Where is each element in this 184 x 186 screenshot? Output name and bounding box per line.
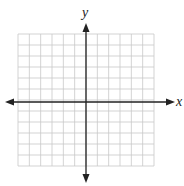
coordinate-plane: x y [0, 0, 184, 186]
y-axis [83, 23, 90, 183]
y-axis-up-arrow-icon [83, 23, 90, 32]
y-axis-down-arrow-icon [83, 174, 90, 183]
y-axis-label: y [80, 5, 89, 20]
x-axis-right-arrow-icon [166, 99, 175, 106]
x-axis [5, 99, 175, 106]
x-axis-left-arrow-icon [5, 99, 14, 106]
x-axis-label: x [175, 94, 183, 109]
